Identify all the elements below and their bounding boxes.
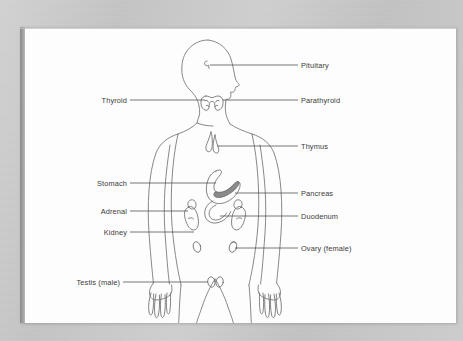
adrenal-gland-left [188, 200, 196, 209]
labels-right: Pituitary Parathyroid Thymus Pancreas Du… [301, 61, 352, 253]
kidney-right [232, 207, 246, 230]
label-ovary[interactable]: Ovary (female) [301, 244, 352, 253]
pituitary-gland [205, 61, 209, 68]
adrenal-gland-right [234, 200, 242, 209]
label-adrenal[interactable]: Adrenal [101, 207, 128, 216]
thyroid-gland [201, 96, 223, 110]
duodenum-organ [205, 201, 231, 223]
labels-left: Thyroid Stomach Adrenal Kidney Testis (m… [77, 96, 128, 287]
label-pancreas[interactable]: Pancreas [301, 189, 333, 198]
label-duodenum[interactable]: Duodenum [301, 212, 338, 221]
label-parathyroid[interactable]: Parathyroid [301, 96, 340, 105]
testis-left [207, 276, 216, 287]
ovary-right [228, 241, 238, 253]
thymus-gland [206, 132, 219, 153]
label-pituitary[interactable]: Pituitary [301, 61, 329, 70]
anatomy-figure: Pituitary Parathyroid Thymus Pancreas Du… [20, 27, 456, 323]
label-stomach[interactable]: Stomach [97, 179, 127, 188]
label-testis[interactable]: Testis (male) [77, 278, 120, 287]
label-thyroid[interactable]: Thyroid [102, 96, 127, 105]
ovary-left [192, 241, 202, 253]
screenshot-root: Pituitary Parathyroid Thymus Pancreas Du… [0, 0, 463, 341]
label-kidney[interactable]: Kidney [104, 228, 128, 237]
kidney-left [184, 207, 198, 230]
label-thymus[interactable]: Thymus [301, 142, 328, 151]
